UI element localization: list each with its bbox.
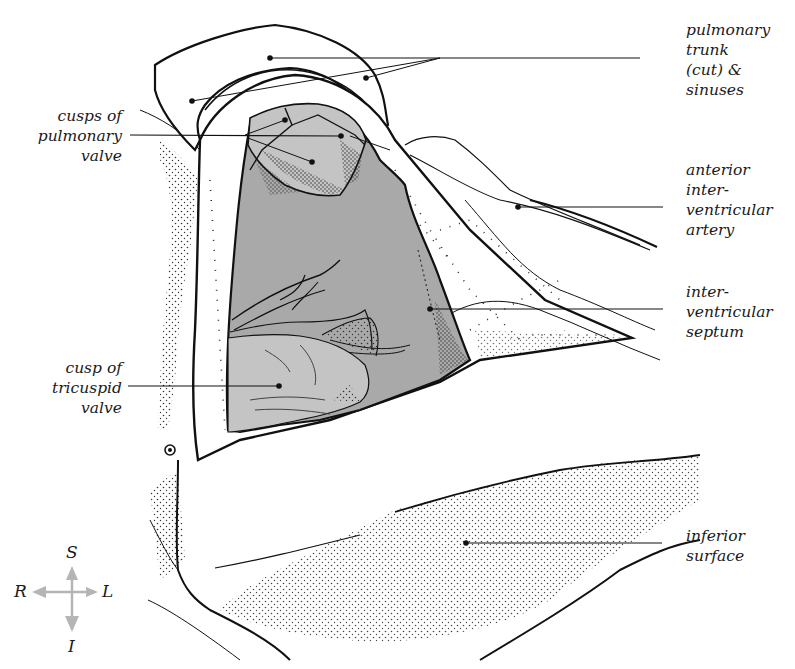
label-cusps-pulmonary-valve: cusps of pulmonary valve [10, 106, 122, 166]
right-border-fat [140, 110, 200, 580]
heart-illustration [0, 0, 795, 669]
compass-superior-label: S [66, 542, 78, 562]
label-interventricular-septum: inter- ventricular septum [686, 282, 773, 342]
label-anterior-interventricular-artery: anterior inter- ventricular artery [686, 160, 773, 240]
orientation-compass-icon [32, 566, 98, 632]
pulmonary-valve-cusps [248, 104, 366, 196]
compass-inferior-label: I [68, 636, 75, 656]
label-cusp-tricuspid-valve: cusp of tricuspid valve [10, 358, 122, 418]
label-pulmonary-trunk: pulmonary trunk (cut) & sinuses [686, 20, 770, 100]
compass-left-label: L [102, 581, 113, 601]
label-inferior-surface: inferior surface [686, 526, 745, 566]
compass-right-label: R [14, 581, 27, 601]
